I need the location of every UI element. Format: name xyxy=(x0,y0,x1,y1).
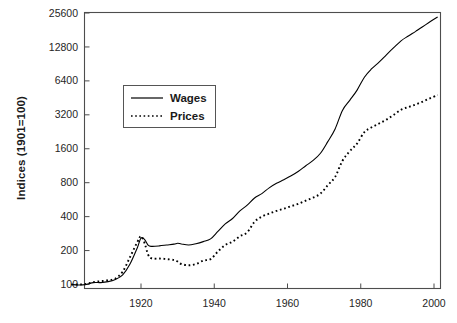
y-tick-label: 3200 xyxy=(55,108,79,120)
chart-plot: 2560012800640032001600800400200100 19201… xyxy=(0,0,457,323)
series-wages xyxy=(71,17,437,285)
x-axis-tick-labels: 19201940196019802000 xyxy=(129,297,446,309)
y-tick-label: 1600 xyxy=(55,142,79,154)
y-tick-label: 200 xyxy=(60,244,78,256)
y-tick-label: 12800 xyxy=(49,41,78,53)
y-axis-tick-marks xyxy=(85,13,90,285)
y-tick-label: 800 xyxy=(60,176,78,188)
x-axis-tick-marks xyxy=(141,284,434,289)
chart-legend: Wages Prices xyxy=(124,86,216,128)
y-tick-label: 400 xyxy=(60,210,78,222)
legend-label-wages: Wages xyxy=(170,92,207,104)
x-tick-label: 1960 xyxy=(276,297,300,309)
x-tick-label: 1920 xyxy=(129,297,153,309)
legend-label-prices: Prices xyxy=(170,110,205,122)
y-tick-label: 100 xyxy=(60,278,78,290)
data-series-group xyxy=(71,17,437,285)
y-axis-tick-labels: 2560012800640032001600800400200100 xyxy=(49,7,78,291)
chart-figure: Indices (1901=100) 256001280064003200160… xyxy=(0,0,457,323)
y-tick-label: 25600 xyxy=(49,7,78,19)
x-tick-label: 2000 xyxy=(422,297,446,309)
x-tick-label: 1980 xyxy=(349,297,373,309)
y-tick-label: 6400 xyxy=(55,74,79,86)
x-tick-label: 1940 xyxy=(203,297,227,309)
